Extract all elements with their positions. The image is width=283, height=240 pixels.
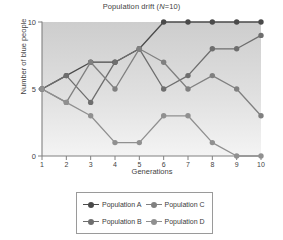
data-point (39, 86, 44, 91)
y-tick-label: 0 (15, 152, 36, 161)
data-point (112, 86, 117, 91)
data-point (210, 46, 215, 51)
data-point (161, 113, 166, 118)
data-point (234, 153, 239, 158)
data-point (258, 19, 263, 24)
data-point (161, 60, 166, 65)
data-point (88, 100, 93, 105)
data-point (88, 60, 93, 65)
y-tick-label: 10 (15, 18, 36, 27)
legend-item-population-c[interactable]: Population C (146, 201, 209, 209)
data-point (185, 113, 190, 118)
data-point (137, 46, 142, 51)
legend-marker-icon (146, 218, 162, 226)
data-point (258, 153, 263, 158)
data-point (112, 140, 117, 145)
data-point (185, 73, 190, 78)
legend-marker-icon (146, 201, 162, 209)
data-point (112, 60, 117, 65)
data-point (234, 86, 239, 91)
legend-item-population-d[interactable]: Population D (146, 218, 209, 226)
legend-item-population-b[interactable]: Population B (83, 218, 146, 226)
data-point (137, 140, 142, 145)
legend-label: Population C (165, 201, 205, 208)
data-point (64, 100, 69, 105)
legend-item-population-a[interactable]: Population A (83, 201, 146, 209)
legend-label: Population D (165, 218, 205, 225)
data-point (185, 19, 190, 24)
legend-label: Population A (102, 201, 141, 208)
y-tick-label: 5 (15, 85, 36, 94)
legend-marker-icon (83, 201, 99, 209)
data-point (258, 33, 263, 38)
data-point (161, 19, 166, 24)
data-point (234, 46, 239, 51)
chart-legend: Population APopulation CPopulation BPopu… (76, 192, 213, 234)
data-point (185, 86, 190, 91)
x-axis-label: Generations (38, 167, 266, 176)
legend-label: Population B (102, 218, 142, 225)
data-point (88, 113, 93, 118)
legend-grid: Population APopulation CPopulation BPopu… (77, 193, 212, 233)
data-point (210, 73, 215, 78)
data-point (210, 19, 215, 24)
chart-figure: Population drift (N=10) Number of blue p… (0, 0, 283, 240)
data-point (161, 86, 166, 91)
data-point (234, 19, 239, 24)
data-point (258, 113, 263, 118)
data-point (210, 140, 215, 145)
data-point (64, 73, 69, 78)
legend-marker-icon (83, 218, 99, 226)
